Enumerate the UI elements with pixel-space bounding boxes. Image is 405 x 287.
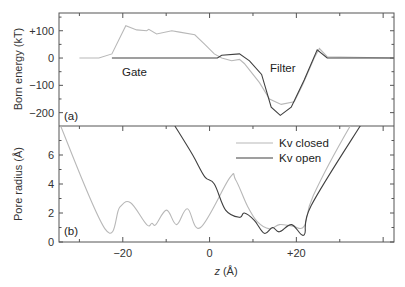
tick-labels: −200+20+1000−100−2000246 [29, 25, 305, 259]
chart-svg: −200+20+1000−100−2000246 Gate Filter (a)… [0, 0, 405, 287]
gate-annotation: Gate [122, 66, 147, 78]
y-tick-label-energy: 0 [48, 52, 54, 64]
y-axis-title-born-energy: Born energy (kT) [12, 28, 24, 111]
panel-a-label: (a) [64, 110, 78, 122]
legend-label-kv-open: Kv open [279, 152, 321, 164]
x-axis-unit: (Å) [220, 265, 238, 277]
curves [58, 26, 394, 236]
x-tick-label: −20 [113, 247, 132, 259]
x-axis-title: z (Å) [213, 265, 237, 277]
y-tick-label-radius: 0 [48, 236, 54, 248]
y-tick-label-radius: 6 [48, 149, 54, 161]
born-energy-pore-radius-figure: −200+20+1000−100−2000246 Gate Filter (a)… [0, 0, 405, 287]
y-tick-label-energy: +100 [29, 25, 54, 37]
y-axis-title-pore-radius: Pore radius (Å) [12, 147, 24, 221]
axis-ticks [59, 13, 394, 242]
legend: Kv closed Kv open [236, 137, 329, 164]
filter-annotation: Filter [270, 62, 296, 74]
plot-frame [59, 13, 394, 242]
panel-b-label: (b) [64, 225, 78, 237]
plot-frames [59, 13, 394, 242]
x-tick-label: +20 [287, 247, 306, 259]
y-tick-label-energy: −100 [29, 79, 54, 91]
y-tick-label-radius: 2 [48, 207, 54, 219]
y-tick-label-energy: −200 [29, 107, 54, 119]
x-tick-label: 0 [207, 247, 213, 259]
top-kv-open-line [112, 50, 394, 116]
bottom-kv-closed-line [58, 104, 366, 233]
legend-label-kv-closed: Kv closed [279, 137, 329, 149]
bottom-kv-open-line [175, 112, 370, 236]
y-tick-label-radius: 4 [48, 178, 54, 190]
